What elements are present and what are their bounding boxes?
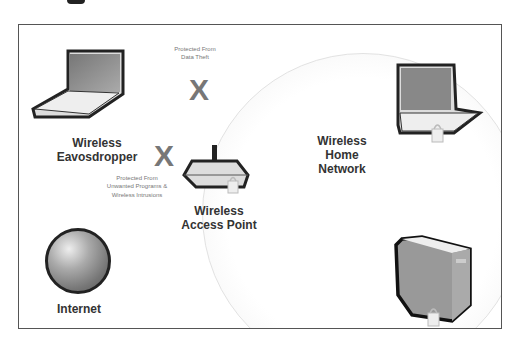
intrusions-line2: Unwanted Programs & <box>89 182 185 190</box>
internet-label: Internet <box>39 303 119 317</box>
partial-heading-glyph <box>67 0 85 4</box>
blocked-x-marker-data-theft: X <box>189 75 209 105</box>
home-network-label-line1: Wireless <box>307 135 377 149</box>
data-theft-line1: Protected From <box>159 45 231 53</box>
access-point-label: Wireless Access Point <box>169 205 269 233</box>
home-desktop-tower-icon <box>392 235 472 328</box>
lock-icon <box>428 313 439 326</box>
home-network-label-line3: Network <box>307 163 377 177</box>
intrusions-annotation: Protected From Unwanted Programs & Wirel… <box>89 174 185 199</box>
data-theft-line2: Data Theft <box>159 53 231 61</box>
home-laptop-icon <box>394 63 484 148</box>
eavesdropper-label-line1: Wireless <box>49 137 145 151</box>
data-theft-annotation: Protected From Data Theft <box>159 45 231 62</box>
access-point-label-line2: Access Point <box>169 219 269 233</box>
access-point-label-line1: Wireless <box>169 205 269 219</box>
eavesdropper-label-line2: Eavosdropper <box>49 151 145 165</box>
lock-icon <box>432 129 443 142</box>
home-network-label: Wireless Home Network <box>307 135 377 176</box>
eavesdropper-label: Wireless Eavosdropper <box>49 137 145 165</box>
diagram-frame: Wireless Eavosdropper Protected From Unw… <box>18 24 502 329</box>
home-network-label-line2: Home <box>307 149 377 163</box>
internet-globe-icon <box>45 228 111 294</box>
intrusions-line1: Protected From <box>89 174 185 182</box>
blocked-x-marker-intrusions: X <box>154 141 174 171</box>
eavesdropper-laptop-icon <box>31 49 126 129</box>
intrusions-line3: Wireless Intrusions <box>89 191 185 199</box>
access-point-router-icon <box>182 145 252 200</box>
